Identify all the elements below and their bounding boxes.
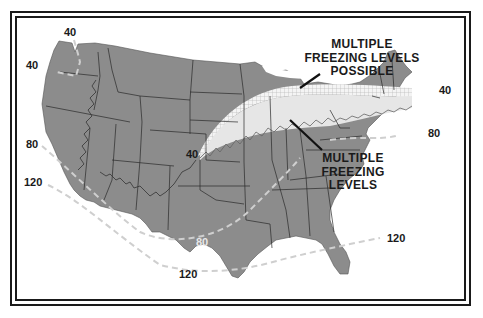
isoline-label-80-mid-atlantic: 80 [428,128,440,139]
isoline-label-120-gulf: 120 [179,269,197,280]
isoline-label-80-west: 80 [26,139,38,150]
callout-multiple-freezing-levels: MULTIPLE FREEZING LEVELS [308,152,398,193]
isoline-label-40-central: 40 [186,149,198,160]
isoline-label-40-new-england: 40 [439,85,451,96]
callout-multiple-freezing-levels-possible: MULTIPLE FREEZING LEVELS POSSIBLE [298,38,426,79]
isoline-label-80-texas: 80 [196,237,208,248]
isoline-label-40-nw-top: 40 [64,27,76,38]
isoline-label-40-nw-coast: 40 [26,60,38,71]
isoline-label-120-southeast: 120 [387,233,405,244]
isoline-label-120-southwest: 120 [24,177,42,188]
